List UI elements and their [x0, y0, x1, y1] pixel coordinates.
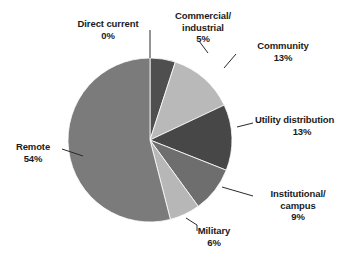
pie-label-commercial-industrial-name-line1: Commercial/ — [160, 10, 246, 22]
pie-label-commercial-industrial: Commercial/ industrial 5% — [160, 10, 246, 45]
pie-label-military-name: Military — [183, 225, 245, 237]
leader-line-community — [224, 54, 236, 68]
pie-label-utility-distribution-value: 13% — [255, 126, 349, 138]
pie-label-direct-current-name: Direct current — [62, 18, 154, 30]
pie-label-direct-current: Direct current 0% — [62, 18, 154, 41]
pie-label-institutional-campus-name-line2: campus — [255, 200, 341, 212]
pie-label-military: Military 6% — [183, 225, 245, 248]
pie-label-direct-current-value: 0% — [62, 30, 154, 42]
pie-label-military-value: 6% — [183, 237, 245, 249]
pie-label-remote-name: Remote — [4, 141, 62, 153]
leader-line-utility — [237, 123, 253, 127]
pie-label-remote: Remote 54% — [4, 141, 62, 164]
pie-label-commercial-industrial-value: 5% — [160, 33, 246, 45]
pie-label-community: Community 13% — [240, 40, 326, 63]
pie-label-utility-distribution-name: Utility distribution — [255, 114, 349, 126]
pie-label-institutional-campus: Institutional/ campus 9% — [255, 188, 341, 223]
pie-label-community-value: 13% — [240, 52, 326, 64]
pie-slice-group — [68, 58, 232, 222]
pie-label-institutional-campus-name-line1: Institutional/ — [255, 188, 341, 200]
pie-label-community-name: Community — [240, 40, 326, 52]
pie-label-commercial-industrial-name-line2: industrial — [160, 22, 246, 34]
pie-label-remote-value: 54% — [4, 153, 62, 165]
leader-line-institutional — [222, 187, 253, 196]
pie-chart: Direct current 0% Commercial/ industrial… — [0, 0, 349, 263]
pie-label-institutional-campus-value: 9% — [255, 211, 341, 223]
pie-label-utility-distribution: Utility distribution 13% — [255, 114, 349, 137]
